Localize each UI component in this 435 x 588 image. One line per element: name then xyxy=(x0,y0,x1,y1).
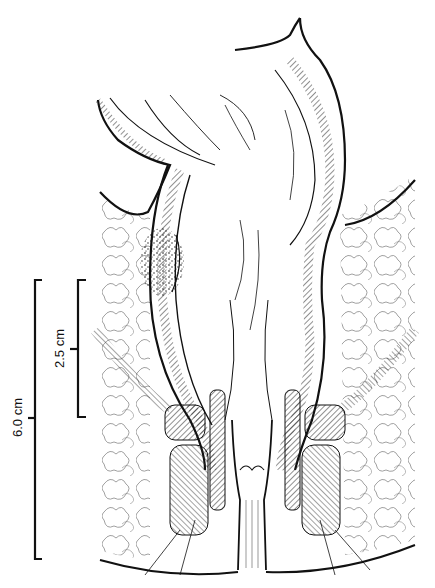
scale-label-outer: 6.0 cm xyxy=(10,393,25,443)
tumor xyxy=(140,228,184,296)
scale-bar-inner xyxy=(70,280,86,417)
anatomical-illustration xyxy=(0,0,435,588)
left-pelvic-wall xyxy=(98,98,215,215)
scale-label-inner: 2.5 cm xyxy=(52,324,67,374)
perirectal-fat xyxy=(100,175,415,560)
anal-canal xyxy=(232,420,272,570)
scale-bar-outer xyxy=(28,280,42,559)
